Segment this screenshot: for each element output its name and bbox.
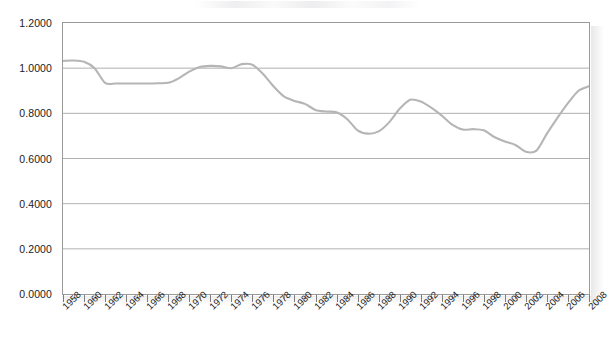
- x-tick-major: [294, 295, 295, 302]
- x-tick-minor: [137, 295, 138, 299]
- x-tick-minor: [536, 295, 537, 299]
- plot-svg: [63, 23, 589, 294]
- x-tick-major: [505, 295, 506, 302]
- y-tick-label: 1.0000: [19, 62, 52, 74]
- x-tick-major: [126, 295, 127, 302]
- x-tick-major: [105, 295, 106, 302]
- x-tick-major: [463, 295, 464, 302]
- y-axis: 1.20001.00000.80000.60000.40000.20000.00…: [0, 0, 52, 337]
- y-tick-label: 0.4000: [19, 198, 52, 210]
- y-tick-label: 0.0000: [19, 288, 52, 300]
- x-tick-minor: [221, 295, 222, 299]
- data-line-1: [63, 60, 589, 152]
- x-tick-minor: [242, 295, 243, 299]
- x-tick-major: [547, 295, 548, 302]
- x-tick-minor: [579, 295, 580, 299]
- x-tick-major: [316, 295, 317, 302]
- x-tick-major: [421, 295, 422, 302]
- x-tick-major: [442, 295, 443, 302]
- x-tick-major: [379, 295, 380, 302]
- x-tick-major: [168, 295, 169, 302]
- x-tick-minor: [452, 295, 453, 299]
- x-tick-minor: [494, 295, 495, 299]
- x-tick-major: [84, 295, 85, 302]
- y-tick-label: 0.8000: [19, 107, 52, 119]
- x-tick-major: [358, 295, 359, 302]
- x-tick-minor: [389, 295, 390, 299]
- x-tick-major: [568, 295, 569, 302]
- x-tick-minor: [515, 295, 516, 299]
- plot-area: [62, 22, 590, 295]
- y-tick-label: 0.2000: [19, 243, 52, 255]
- data-series-group: [63, 60, 589, 152]
- x-tick-major: [526, 295, 527, 302]
- y-tick-label: 1.2000: [19, 17, 52, 29]
- x-tick-minor: [305, 295, 306, 299]
- x-tick-minor: [557, 295, 558, 299]
- x-tick-minor: [410, 295, 411, 299]
- x-tick-minor: [158, 295, 159, 299]
- x-tick-major: [189, 295, 190, 302]
- gridlines: [63, 68, 589, 249]
- x-tick-major: [63, 295, 64, 302]
- x-tick-major: [337, 295, 338, 302]
- x-tick-minor: [347, 295, 348, 299]
- x-tick-major: [400, 295, 401, 302]
- x-tick-minor: [263, 295, 264, 299]
- x-tick-minor: [431, 295, 432, 299]
- x-tick-major: [231, 295, 232, 302]
- x-tick-minor: [200, 295, 201, 299]
- x-tick-minor: [473, 295, 474, 299]
- x-tick-minor: [116, 295, 117, 299]
- x-tick-major: [273, 295, 274, 302]
- x-tick-minor: [179, 295, 180, 299]
- scan-artifact-bottom: [62, 296, 591, 305]
- x-tick-minor: [326, 295, 327, 299]
- x-tick-minor: [74, 295, 75, 299]
- x-tick-major: [252, 295, 253, 302]
- x-tick-minor: [368, 295, 369, 299]
- y-tick-label: 0.6000: [19, 153, 52, 165]
- x-tick-major: [484, 295, 485, 302]
- x-tick-major: [589, 295, 590, 302]
- line-chart: 1.20001.00000.80000.60000.40000.20000.00…: [0, 0, 611, 337]
- x-tick-minor: [284, 295, 285, 299]
- x-tick-minor: [95, 295, 96, 299]
- scan-artifact-top: [195, 1, 420, 8]
- x-tick-major: [210, 295, 211, 302]
- scan-artifact-right: [591, 26, 604, 306]
- x-tick-major: [147, 295, 148, 302]
